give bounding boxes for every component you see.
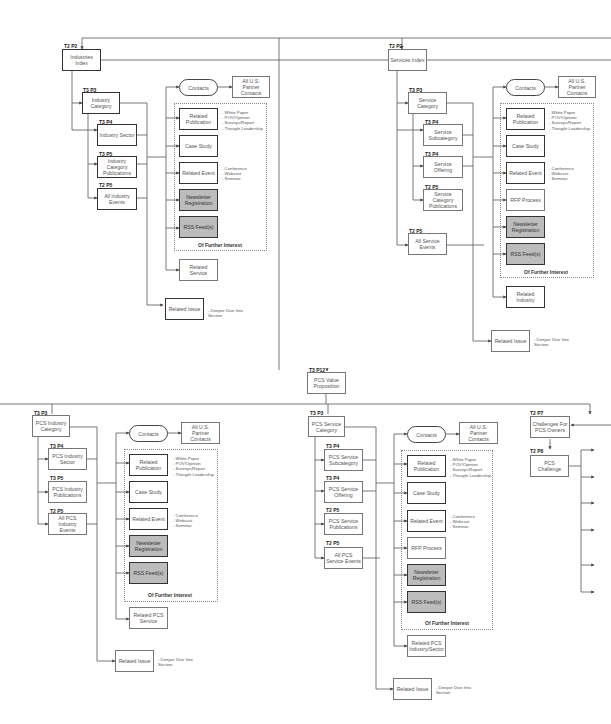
pcs-industry-related-service-node[interactable]: Related PCS Service <box>129 607 168 629</box>
pcs-service-issue-notes: - Deeper Dive Into Section <box>436 685 471 695</box>
industry-partner-contacts-node[interactable]: All U.S. Partner Contacts <box>232 76 270 98</box>
service-partner-contacts-node[interactable]: All U.S. Partner Contacts <box>558 76 596 98</box>
industry-rss-node[interactable]: RSS Feed(s) <box>179 216 218 238</box>
industry-issue-notes: - Deeper Dive Into Section <box>208 308 243 318</box>
pcs-service-partner-contacts-node[interactable]: All U.S. Partner Contacts <box>459 422 498 444</box>
pcs-industry-related-event-node[interactable]: Related Event <box>129 508 168 530</box>
pcs-service-related-issue-node[interactable]: Related Issue <box>393 678 432 700</box>
pcs-industry-event-notes: - Conference - Webcast - Seminar <box>173 513 198 529</box>
pcs-industry-events-node[interactable]: All PCS Industry Events <box>48 513 87 535</box>
pcs-industry-rss-node[interactable]: RSS Feed(s) <box>129 562 168 584</box>
pcs-industry-related-publication-node[interactable]: Related Publication <box>129 454 168 476</box>
challenges-owners-node[interactable]: Challenges For PCS Owners <box>530 416 570 438</box>
sitemap-diagram: T2 P2 Industries Index T2 P2 Services In… <box>0 0 611 724</box>
industry-related-service-node[interactable]: Related Service <box>179 259 218 281</box>
pcs-service-case-study-node[interactable]: Case Study <box>407 482 446 504</box>
pcs-industry-related-issue-node[interactable]: Related Issue <box>115 650 154 672</box>
pcs-industry-case-study-node[interactable]: Case Study <box>129 481 168 503</box>
service-publication-notes: - White Paper - POV/Opinion - Surveys/Re… <box>549 110 590 131</box>
service-publications-node[interactable]: Service Category Publications <box>423 189 463 211</box>
pcs-industry-publications-node[interactable]: PCS Industry Publications <box>48 481 87 503</box>
service-issue-notes: - Deeper Dive Into Section <box>534 337 569 347</box>
industry-further-interest-label: Of Further Interest <box>198 242 242 248</box>
pcs-industry-issue-notes: - Deeper Dive Into Section <box>158 657 193 667</box>
industry-publications-node[interactable]: Industry Category Publications <box>97 156 137 178</box>
pcs-service-publication-notes: - White Paper - POV/Opinion - Surveys/Re… <box>450 457 491 478</box>
industry-event-notes: - Conference - Webcast - Seminar <box>222 166 247 182</box>
service-newsletter-node[interactable]: Newsletter Registration <box>506 216 545 238</box>
pcs-service-related-industry-node[interactable]: Related PCS Industry/Sector <box>407 635 446 657</box>
industry-category-node[interactable]: Industry Category <box>82 92 120 114</box>
service-events-node[interactable]: All Service Events <box>408 233 447 255</box>
pcs-challenge-node[interactable]: PCS Challenge <box>530 455 569 477</box>
pcs-service-subcategory-node[interactable]: PCS Service Subcategory <box>324 449 363 471</box>
pcs-challenge-tag: T2 P8 <box>530 448 543 454</box>
industry-case-study-node[interactable]: Case Study <box>179 135 218 157</box>
industry-related-event-node[interactable]: Related Event <box>179 162 218 184</box>
service-related-publication-node[interactable]: Related Publication <box>506 108 545 130</box>
pcs-service-related-event-node[interactable]: Related Event <box>407 510 446 532</box>
pcs-service-newsletter-node[interactable]: Newsletter Registration <box>407 564 446 586</box>
pcs-industry-further-interest-label: Of Further Interest <box>148 592 192 598</box>
pcs-industry-contacts-node[interactable]: Contacts <box>129 425 168 442</box>
service-event-notes: - Conference - Webcast - Seminar <box>549 166 574 182</box>
pcs-service-offering-node[interactable]: PCS Service Offering <box>324 481 363 503</box>
service-case-study-node[interactable]: Case Study <box>506 135 545 157</box>
service-related-issue-node[interactable]: Related Issue <box>491 330 530 352</box>
industry-contacts-node[interactable]: Contacts <box>179 79 218 96</box>
industry-publication-notes: - White Paper - POV/Opinion - Surveys/Re… <box>222 110 263 131</box>
service-related-industry-node[interactable]: Related Industry <box>506 286 545 308</box>
pcs-service-publications-node[interactable]: PCS Service Publications <box>324 513 363 535</box>
service-category-node[interactable]: Service Category <box>408 92 447 114</box>
pcs-industry-sector-node[interactable]: PCS Industry Sector <box>48 448 87 470</box>
pcs-service-related-publication-node[interactable]: Related Publication <box>407 455 446 477</box>
pcs-service-events-tag: T2 P5 <box>326 540 339 546</box>
industry-newsletter-node[interactable]: Newsletter Registration <box>179 189 218 211</box>
pcs-service-events-node[interactable]: All PCS Service Events <box>324 547 363 569</box>
service-rss-node[interactable]: RSS Feed(s) <box>506 243 545 265</box>
pcs-service-contacts-node[interactable]: Contacts <box>407 426 446 443</box>
service-offering-node[interactable]: Service Offering <box>423 156 463 178</box>
pcs-industry-partner-contacts-node[interactable]: All U.S. Partner Contacts <box>181 422 220 444</box>
pcs-value-node[interactable]: PCS Value Proposition <box>307 372 346 394</box>
pcs-service-further-interest-label: Of Further Interest <box>425 620 469 626</box>
services-index-node[interactable]: Services Index <box>388 49 427 71</box>
industry-events-node[interactable]: All Industry Events <box>97 188 137 210</box>
pcs-service-rss-node[interactable]: RSS Feed(s) <box>407 591 446 613</box>
pcs-industry-category-node[interactable]: PCS Industry Category <box>32 415 70 437</box>
pcs-industry-newsletter-node[interactable]: Newsletter Registration <box>129 535 168 557</box>
pcs-service-category-node[interactable]: PCS Service Category <box>308 416 345 437</box>
industries-index-node[interactable]: Industries Index <box>62 49 101 71</box>
service-related-event-node[interactable]: Related Event <box>506 162 545 184</box>
pcs-service-event-notes: - Conference - Webcast - Seminar <box>450 514 475 530</box>
industry-sector-node[interactable]: Industry Sector <box>97 124 137 146</box>
service-further-interest-label: Of Further Interest <box>524 269 568 275</box>
service-subcategory-node[interactable]: Service Subcategory <box>423 124 463 146</box>
service-contacts-node[interactable]: Contacts <box>506 79 545 96</box>
industry-related-issue-node[interactable]: Related Issue <box>165 298 204 320</box>
pcs-service-rfp-node[interactable]: RFP Process <box>407 537 446 559</box>
service-rfp-node[interactable]: RFP Process <box>506 189 545 211</box>
industry-related-publication-node[interactable]: Related Publication <box>179 108 218 130</box>
pcs-industry-publication-notes: - White Paper - POV/Opinion - Surveys/Re… <box>173 456 214 477</box>
